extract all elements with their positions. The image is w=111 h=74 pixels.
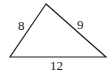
side-label-left: 8 (18, 18, 25, 33)
triangle-diagram: 8 9 12 (0, 0, 111, 74)
side-label-bottom: 12 (50, 58, 63, 73)
side-label-right: 9 (77, 17, 84, 32)
